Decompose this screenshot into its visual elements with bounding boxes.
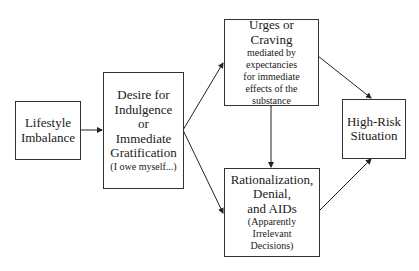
node-sublabel: substance (252, 95, 291, 107)
arrow-urges-to-highrisk (318, 56, 371, 98)
node-label: Imbalance (21, 131, 75, 146)
node-sublabel: (I owe myself...) (110, 161, 176, 173)
node-label: Urges or (249, 18, 294, 33)
node-sublabel: mediated by (247, 47, 296, 59)
node-label: and AIDs (247, 202, 296, 217)
node-high-risk-situation: High-Risk Situation (342, 99, 406, 159)
arrow-desire-to-rationalization (183, 130, 223, 213)
node-label: Rationalization, (231, 173, 314, 188)
node-sublabel: for immediate (243, 71, 299, 83)
node-label: Indulgence (115, 103, 173, 118)
node-sublabel: expectancies (246, 59, 297, 71)
node-lifestyle-imbalance: Lifestyle Imbalance (15, 101, 81, 160)
node-sublabel: effects of the (245, 83, 297, 95)
node-label: Denial, (253, 187, 291, 202)
node-label: Immediate (116, 132, 172, 147)
node-label: High-Risk (347, 115, 401, 130)
node-label: Gratification (110, 146, 176, 161)
node-sublabel: Irrelevant (253, 228, 292, 240)
node-desire-for-indulgence: Desire for Indulgence or Immediate Grati… (103, 72, 184, 189)
node-sublabel: (Apparently (248, 216, 296, 228)
arrow-desire-to-urges (183, 63, 223, 130)
arrow-rationalization-to-highrisk (319, 159, 371, 211)
node-rationalization-denial-aids: Rationalization, Denial, and AIDs (Appar… (224, 168, 320, 257)
node-sublabel: Decisions) (251, 240, 294, 252)
node-label: Situation (351, 129, 398, 144)
node-urges-or-craving: Urges or Craving mediated by expectancie… (224, 19, 319, 106)
node-label: Craving (251, 33, 293, 48)
node-label: or (138, 117, 149, 132)
node-label: Lifestyle (25, 116, 71, 131)
node-label: Desire for (117, 88, 169, 103)
